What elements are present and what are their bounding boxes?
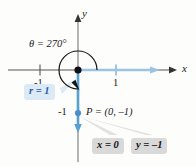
x-axis-label: x <box>182 63 187 74</box>
math-figure: x y θ = 270° -1 1 -1 P = (0, –1) r = 1 x… <box>0 0 196 166</box>
origin-point <box>74 66 81 73</box>
terminal-side-arrowhead <box>74 124 82 133</box>
angle-label: θ = 270° <box>29 39 66 50</box>
initial-side-arrowhead <box>150 66 160 73</box>
y-tick-label-negative-one: -1 <box>58 107 67 118</box>
terminal-point-P <box>75 110 81 116</box>
callout-x-coordinate: x = 0 <box>92 138 124 154</box>
x-axis-arrowhead <box>169 67 177 74</box>
x-tick-label-one: 1 <box>113 78 118 89</box>
y-axis-arrowhead <box>75 14 82 22</box>
callout-radius: r = 1 <box>24 84 55 100</box>
y-axis-label: y <box>82 8 87 19</box>
y-callout-pointer <box>80 116 153 135</box>
point-label-P: P = (0, –1) <box>86 107 133 118</box>
callout-y-coordinate: y = –1 <box>131 138 167 154</box>
